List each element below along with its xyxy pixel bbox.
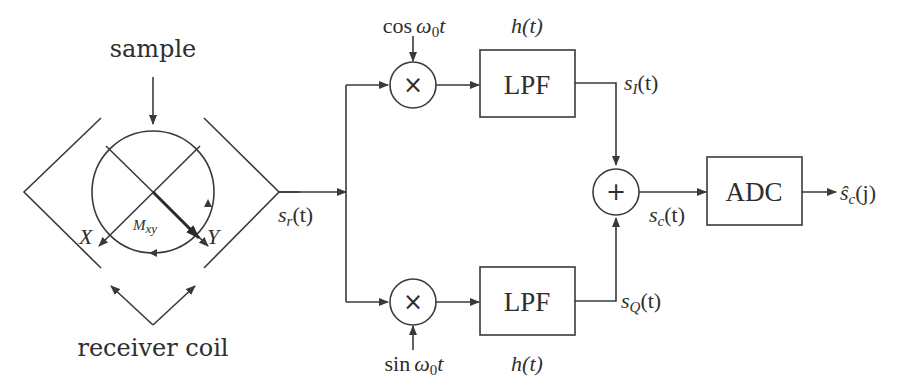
y-axis-label: Y <box>207 224 222 249</box>
quadrature-detection-diagram: sample X Y Mxy receiver coil sr(t) cosω0… <box>0 0 906 392</box>
receiver-coil-pointer: receiver coil <box>77 286 228 362</box>
quadrature-label: sQ(t) <box>621 288 661 315</box>
rotation-arrow-left-icon <box>149 249 157 257</box>
plus-icon: + <box>606 178 626 206</box>
lpf-label: LPF <box>504 70 551 100</box>
lpf-label: LPF <box>504 287 551 317</box>
coil-pointer-right-icon <box>153 286 195 325</box>
coil-pointer-left-icon <box>111 286 153 325</box>
in-phase-label: sI(t) <box>624 70 658 97</box>
receiver-coil-label: receiver coil <box>77 334 228 362</box>
multiply-icon: × <box>403 288 423 316</box>
adc: ADC <box>707 157 802 225</box>
sample-label: sample <box>110 35 197 63</box>
magnetization-label: Mxy <box>132 217 157 236</box>
top-impulse-response-label: h(t) <box>511 13 543 38</box>
x-axis-label: X <box>78 224 94 249</box>
sample-label-group: sample <box>110 35 197 124</box>
multiply-icon: × <box>403 71 423 99</box>
sampled-signal-label: ŝc(j) <box>840 180 876 207</box>
received-signal-label: sr(t) <box>278 202 313 229</box>
spin-sample: X Y Mxy <box>78 131 222 257</box>
quadrature-line <box>575 218 616 301</box>
summer: + <box>593 169 639 215</box>
top-lpf: h(t) LPF <box>480 13 575 117</box>
complex-signal-label: sc(t) <box>649 202 685 229</box>
sin-reference-label: sinω0t <box>385 351 445 378</box>
top-mixer: cosω0t × <box>383 13 479 108</box>
bottom-mixer: × sinω0t <box>385 279 479 378</box>
cos-reference-label: cosω0t <box>383 13 446 40</box>
adc-label: ADC <box>725 177 782 207</box>
bottom-lpf: LPF h(t) <box>480 267 575 376</box>
bottom-impulse-response-label: h(t) <box>511 351 543 376</box>
magnetization-vector-icon <box>153 192 199 238</box>
in-phase-line <box>575 83 616 165</box>
rotation-arrow-up-icon <box>204 199 212 207</box>
